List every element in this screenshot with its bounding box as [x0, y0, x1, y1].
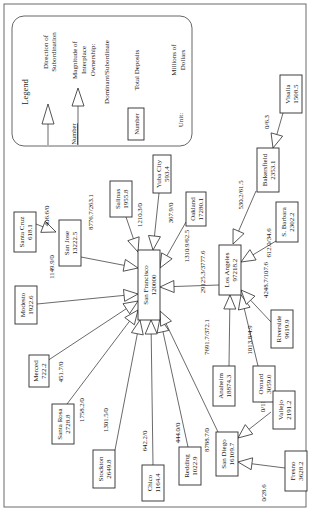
- node-name: Vallejo: [277, 400, 285, 420]
- node-riverside: Riverside9619.9: [271, 310, 293, 348]
- edge-label: 1013.8/4.9: [246, 325, 253, 355]
- arrow-head-icon: [238, 458, 253, 470]
- node-deposits: 2353.1: [269, 160, 277, 180]
- legend-border: [12, 16, 192, 146]
- edge-label: 451.7/0: [57, 361, 64, 382]
- node-salinas: Salinas1955.8: [110, 181, 132, 217]
- edge-oakland-to-san-francisco: 1310.9/62.5: [160, 222, 190, 268]
- edge-line: [249, 412, 271, 429]
- edge-label: 1310.9/62.5: [183, 229, 190, 262]
- edge-label: 406.6/0: [43, 205, 50, 226]
- edge-stockton-to-san-francisco: 1301.5/0: [102, 320, 143, 450]
- node-santa-rosa: Santa Rosa2728.8: [52, 404, 74, 444]
- edge-label: 612.0/34.6: [265, 228, 272, 258]
- arrow-head-icon: [160, 281, 174, 293]
- edge-oxnard-to-los-angeles: 1013.8/4.9: [238, 295, 258, 366]
- node-name: Stockton: [97, 456, 105, 481]
- edge-bakersfield-to-los-angeles: 530.2/61.5: [233, 180, 256, 244]
- legend-deposits-label: Total Deposits: [133, 49, 141, 90]
- arrow-head-icon: [125, 310, 138, 325]
- legend-direction-arrow-icon: [42, 104, 54, 145]
- edge-line: [151, 334, 153, 465]
- legend-direction-label-2: Subordination: [50, 32, 58, 72]
- edge-label: 0/28.6: [260, 484, 267, 502]
- arrow-head-icon: [238, 425, 253, 438]
- edge-line: [126, 217, 133, 239]
- legend: Legend Direction of Subordination Number…: [20, 32, 97, 145]
- node-santa-cruz: Santa Cruz618.1: [14, 212, 36, 252]
- node-name: Redding: [183, 454, 191, 478]
- arrow-head-icon: [241, 250, 256, 262]
- node-s-barbara: S. Barbara2302.2: [276, 202, 298, 242]
- node-san-francisco: San Francisco120000: [138, 250, 160, 320]
- arrow-head-icon: [148, 235, 160, 250]
- edge-line: [166, 324, 218, 432]
- legend-magnitude-label-2: Interplace: [80, 46, 88, 74]
- edge-label: 0/6.3: [263, 115, 270, 129]
- node-name: Bakersfield: [261, 153, 269, 186]
- edge-line: [47, 309, 126, 361]
- node-name: S. Barbara: [280, 206, 288, 236]
- edge-anaheim-to-los-angeles: 7691.7/372.1: [203, 295, 236, 366]
- edge-santa-cruz-to-san-jose: 406.6/0: [36, 205, 56, 232]
- legend-title: Legend: [20, 79, 30, 105]
- edge-label: 1758.2/0: [78, 397, 85, 422]
- node-deposits: 722.2: [40, 363, 48, 379]
- edge-label: 530.2/61.5: [237, 180, 244, 210]
- arrow-head-icon: [233, 229, 244, 244]
- node-deposits: 1955.8: [122, 189, 130, 209]
- node-deposits: 2649.8: [105, 459, 113, 479]
- edge-label: 4248.7/107.6: [262, 261, 269, 297]
- arrow-head-icon: [123, 289, 138, 301]
- node-visalia: Visalia1508.5: [280, 75, 302, 113]
- edge-label: 367.9/0: [167, 202, 174, 223]
- legend-unit-value-1: Millions of: [170, 44, 178, 76]
- legend-lower: Dominant/Subordinate Number Total Deposi…: [103, 40, 187, 140]
- edge-label: 7691.7/372.1: [203, 319, 210, 355]
- legend-unit-value-2: Dollars: [179, 49, 187, 70]
- legend-magnitude-label-3: Ownership:: [89, 44, 97, 77]
- node-name: Fresno: [289, 461, 297, 481]
- node-anaheim: Anaheim18874.3: [213, 366, 235, 406]
- edge-label: 1149.9/0: [48, 255, 55, 279]
- edge-visalia-to-bakersfield: 0/6.3: [263, 113, 283, 148]
- node-oxnard: Oxnard3059.0: [253, 366, 275, 402]
- edge-line: [37, 295, 124, 304]
- edge-line: [252, 464, 285, 468]
- node-san-diego: San Diego16109.7: [216, 432, 238, 476]
- node-merced: Merced722.2: [29, 355, 49, 387]
- node-deposits: 16109.7: [228, 442, 236, 465]
- edge-yuba-city-to-san-francisco: 367.9/0: [148, 193, 174, 250]
- arrow-head-icon: [123, 259, 138, 271]
- node-name: Merced: [32, 360, 40, 382]
- node-yuba-city: Yuba City593.4: [153, 155, 171, 193]
- node-deposits: 593.4: [163, 166, 171, 182]
- node-stockton: Stockton2649.8: [93, 450, 115, 488]
- node-deposits: 3059.0: [265, 374, 273, 394]
- node-chico: Chico1164.4: [142, 465, 164, 501]
- node-name: Yuba City: [155, 159, 163, 188]
- node-deposits: 2728.8: [64, 414, 72, 434]
- node-name: Modesto: [19, 292, 27, 317]
- legend-magnitude-label-1: Magnitude of: [71, 40, 79, 79]
- node-name: Los Angeles: [223, 252, 231, 287]
- node-los-angeles: Los Angeles97218.2: [219, 245, 241, 295]
- node-san-jose: San Jose13222.5: [59, 220, 81, 266]
- edge-modesto-to-san-francisco: 1149.9/0: [37, 255, 138, 304]
- node-deposits: 618.1: [26, 224, 34, 240]
- edge-label: 444.0/0: [174, 422, 181, 443]
- edge-line: [154, 193, 159, 236]
- node-deposits: 3628.2: [297, 461, 305, 481]
- edge-line: [251, 300, 271, 322]
- node-deposits: 1922.6: [27, 295, 35, 315]
- arrow-head-icon: [271, 133, 283, 148]
- edge-label: 8776.7/263.1: [87, 194, 94, 230]
- node-name: Oakland: [189, 197, 197, 221]
- node-redding: Redding1022.9: [179, 447, 201, 485]
- arrow-head-icon: [160, 311, 171, 326]
- ownership-network-diagram: Legend Direction of Subordination Number…: [0, 0, 324, 514]
- node-deposits: 18874.3: [225, 374, 233, 397]
- node-name: San Francisco: [142, 265, 150, 305]
- edge-line: [115, 334, 137, 450]
- node-deposits: 13222.5: [71, 231, 79, 254]
